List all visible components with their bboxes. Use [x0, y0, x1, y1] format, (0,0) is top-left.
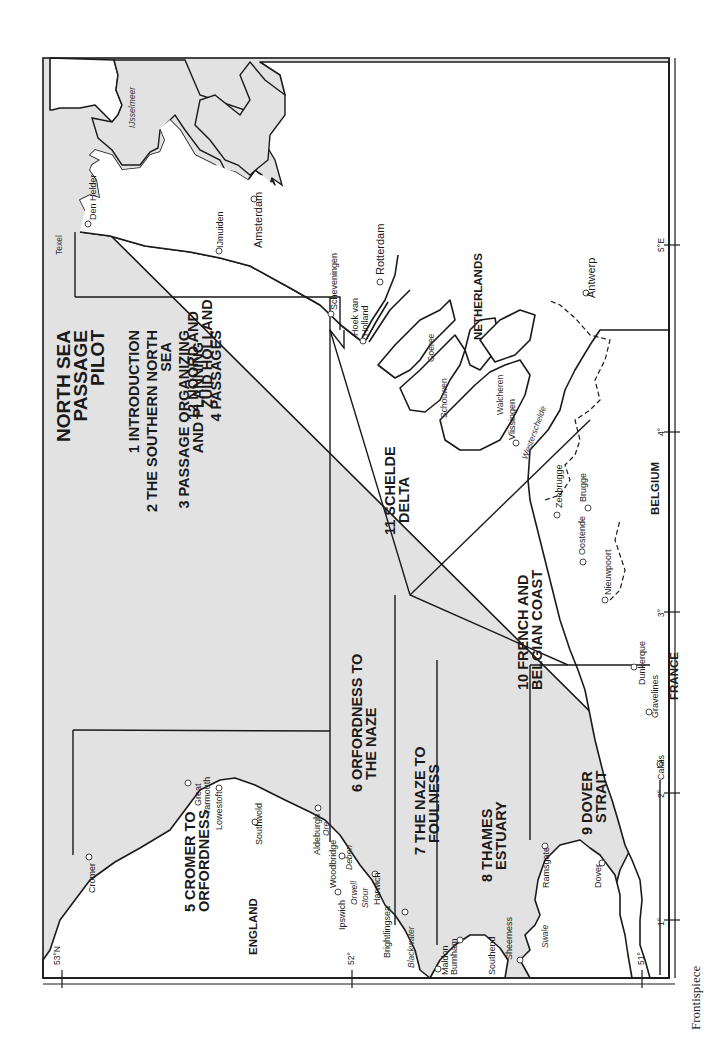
svg-text:Dover: Dover — [593, 864, 603, 888]
svg-text:SEA: SEA — [158, 341, 174, 371]
svg-text:Deben: Deben — [344, 845, 354, 870]
svg-text:5°E: 5°E — [656, 238, 666, 252]
svg-text:Sheerness: Sheerness — [504, 916, 514, 960]
svg-text:Texel: Texel — [54, 235, 64, 255]
svg-text:Blackwater: Blackwater — [406, 925, 416, 968]
svg-text:Harwich: Harwich — [372, 872, 382, 905]
svg-text:Brightlingsea: Brightlingsea — [382, 906, 392, 958]
svg-text:Antwerp: Antwerp — [585, 258, 597, 298]
svg-text:PILOT: PILOT — [87, 330, 108, 386]
svg-text:Rotterdam: Rotterdam — [374, 224, 386, 275]
svg-text:Orwell: Orwell — [349, 880, 359, 905]
svg-text:ORFORDNESS: ORFORDNESS — [196, 809, 212, 912]
svg-text:Ramsgate: Ramsgate — [541, 847, 551, 888]
svg-text:51°: 51° — [636, 952, 646, 965]
svg-text:Scheveningen: Scheveningen — [329, 253, 339, 310]
svg-text:1 INTRODUCTION: 1 INTRODUCTION — [126, 330, 142, 453]
section-label-10: 10 FRENCH AND BELGIAN COAST — [515, 570, 545, 690]
svg-text:Calais: Calais — [656, 754, 666, 780]
frontispiece-caption: Frontispiece — [688, 966, 704, 1030]
svg-text:STRAIT: STRAIT — [593, 771, 609, 824]
section-label-5: 5 CROMER TO ORFORDNESS — [182, 809, 212, 912]
svg-text:Cromer: Cromer — [87, 863, 97, 893]
svg-text:Den Helder: Den Helder — [88, 174, 98, 220]
svg-text:Swale: Swale — [540, 925, 550, 948]
country-label-netherlands: NETHERLANDS — [472, 253, 484, 340]
svg-text:THE NAZE: THE NAZE — [363, 707, 379, 780]
svg-text:Oostende: Oostende — [577, 516, 587, 555]
svg-text:DELTA: DELTA — [396, 476, 412, 523]
svg-text:Walcheren: Walcheren — [495, 374, 505, 415]
svg-text:IJsselmeer: IJsselmeer — [127, 86, 137, 128]
svg-text:Ore: Ore — [321, 822, 331, 836]
svg-text:Lowestoft: Lowestoft — [214, 791, 224, 830]
svg-text:Brugge: Brugge — [578, 473, 588, 502]
svg-text:Ipswich: Ipswich — [337, 900, 347, 930]
section-label-12: 12 NOORD AND ZUID HOLLAND — [185, 299, 215, 420]
section-label-8: 8 THAMES ESTUARY — [479, 801, 509, 882]
svg-text:Yarmouth: Yarmouth — [202, 777, 212, 815]
country-label-england: ENGLAND — [247, 898, 259, 955]
svg-text:Hoek van: Hoek van — [350, 298, 360, 336]
svg-text:Zeebrugge: Zeebrugge — [554, 464, 564, 508]
svg-text:4°: 4° — [656, 428, 666, 436]
svg-text:2°: 2° — [656, 790, 666, 798]
svg-text:Gravelines: Gravelines — [650, 674, 660, 718]
svg-text:Southend: Southend — [487, 936, 497, 975]
svg-text:1°: 1° — [656, 918, 666, 926]
svg-text:53°N: 53°N — [52, 946, 62, 965]
country-label-france: FRANCE — [668, 652, 680, 700]
svg-text:Nieuwpoort: Nieuwpoort — [603, 549, 613, 595]
svg-text:ESTUARY: ESTUARY — [493, 801, 509, 870]
svg-text:Goeree: Goeree — [426, 333, 436, 362]
svg-text:Amsterdam: Amsterdam — [252, 192, 264, 248]
svg-text:Woodbridge: Woodbridge — [328, 840, 338, 888]
svg-text:Stour: Stour — [360, 887, 370, 908]
svg-text:52°: 52° — [346, 952, 356, 965]
svg-text:Southwold: Southwold — [254, 803, 264, 845]
svg-text:IJmuiden: IJmuiden — [215, 211, 225, 248]
svg-text:Burnham: Burnham — [449, 938, 459, 975]
svg-text:Vlissingen: Vlissingen — [507, 399, 517, 440]
svg-text:Holland: Holland — [360, 305, 370, 336]
svg-text:BELGIAN COAST: BELGIAN COAST — [529, 570, 545, 690]
svg-text:Dunkerque: Dunkerque — [637, 641, 647, 685]
country-label-belgium: BELGIUM — [649, 462, 661, 515]
svg-text:ZUID HOLLAND: ZUID HOLLAND — [199, 299, 215, 408]
north-sea-map: NORTH SEA PASSAGE PILOT 1 INTRODUCTION 2… — [0, 0, 712, 1043]
svg-text:Schouwen: Schouwen — [439, 378, 449, 418]
svg-text:3°: 3° — [656, 609, 666, 617]
svg-text:FOULNESS: FOULNESS — [426, 764, 442, 843]
